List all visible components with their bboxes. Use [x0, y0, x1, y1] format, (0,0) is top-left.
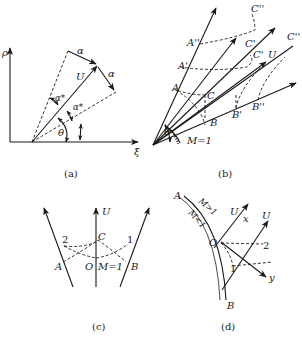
y-axis — [221, 242, 266, 277]
theta-label: θ — [58, 127, 64, 138]
alpha-star-label-2: α* — [73, 102, 84, 112]
label-b: B — [209, 117, 217, 128]
label-c1-top: C' — [245, 38, 255, 49]
label-b-d: B — [226, 300, 234, 311]
label-b-c: B — [130, 261, 138, 272]
dash-o-2 — [221, 243, 263, 244]
dash-o-1 — [96, 244, 128, 258]
panel-d: A M>1 M<1 U x U O 2 1 y B (d) — [173, 190, 275, 332]
label-b1: B' — [231, 109, 242, 120]
dash-c-b — [98, 240, 126, 262]
label-c1-mid: C' — [253, 49, 263, 60]
label-2-c: 2 — [62, 234, 68, 245]
caption-b: (b) — [218, 168, 232, 179]
label-a-c: A — [54, 261, 62, 272]
dash-2-o — [64, 246, 96, 258]
label-c2-right: C'' — [287, 31, 300, 42]
caption-a: (a) — [64, 168, 78, 179]
mach-ray-right — [32, 92, 116, 142]
alpha-star-label-1: α* — [55, 93, 66, 103]
label-y-d: y — [268, 272, 275, 283]
label-m1: M=1 — [186, 135, 212, 146]
label-2-d: 2 — [263, 240, 269, 251]
label-c-c: C — [98, 231, 106, 242]
label-o-d: O — [209, 237, 217, 248]
alpha-label-1: α — [77, 45, 84, 56]
label-1-c: 1 — [127, 234, 133, 245]
label-u1-d: U — [230, 206, 239, 217]
label-a: A — [171, 82, 179, 93]
label-c2-top: C'' — [251, 3, 264, 14]
label-o-c: O — [85, 261, 93, 272]
caption-d: (d) — [221, 321, 235, 332]
caption-c: (c) — [92, 321, 106, 332]
label-m1-c: M=1 — [97, 261, 123, 272]
label-u2-d: U — [262, 210, 271, 221]
xi-label: ξ — [134, 146, 140, 157]
label-a1: A' — [177, 60, 188, 71]
label-c: C — [207, 90, 215, 101]
label-u-c: U — [102, 206, 111, 217]
alpha-label-2: α — [108, 68, 115, 79]
label-b2: B'' — [251, 101, 265, 112]
label-x-d: x — [243, 213, 249, 224]
right-streamline — [120, 208, 149, 287]
panel-a: ρ ξ U α α α* α* θ (a) — [1, 45, 140, 179]
double-arrow — [80, 124, 81, 140]
panel-c: U C 2 1 A O M=1 B (c) — [44, 206, 149, 332]
alpha-star-arc-2 — [67, 111, 72, 121]
label-a2: A'' — [186, 37, 200, 48]
label-u: U — [268, 49, 277, 60]
rho-label: ρ — [1, 47, 8, 58]
panel-b: C'' A'' C' C' C'' A' U A C B B' B'' θ M=… — [153, 3, 300, 179]
figure-diagram: ρ ξ U α α α* α* θ (a) — [0, 0, 302, 338]
left-streamline — [44, 208, 73, 287]
u-label: U — [76, 71, 85, 82]
u-arrow-2 — [222, 221, 268, 290]
label-theta-b: θ — [164, 126, 170, 137]
label-a-d: A — [173, 190, 181, 201]
arc-a-b — [176, 90, 205, 125]
label-mlt1: M<1 — [186, 207, 208, 230]
label-1-d: 1 — [230, 263, 236, 274]
u-vector — [32, 66, 97, 142]
